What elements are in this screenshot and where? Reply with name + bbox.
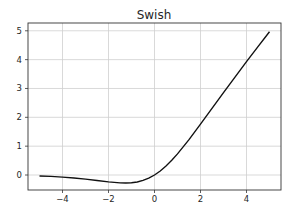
y-tick-label: 2 bbox=[17, 112, 22, 122]
swish-chart: Swish −4−2024 012345 bbox=[0, 0, 294, 211]
y-tick-label: 1 bbox=[17, 141, 22, 151]
y-tick-label: 5 bbox=[17, 26, 22, 36]
grid-lines bbox=[28, 23, 281, 190]
x-tick-label: −4 bbox=[56, 194, 69, 204]
x-axis-ticks: −4−2024 bbox=[56, 190, 249, 204]
y-tick-label: 3 bbox=[17, 83, 22, 93]
x-tick-label: 0 bbox=[152, 194, 157, 204]
x-tick-label: 2 bbox=[198, 194, 203, 204]
y-axis-ticks: 012345 bbox=[17, 26, 28, 180]
y-tick-label: 0 bbox=[17, 170, 22, 180]
x-tick-label: −2 bbox=[102, 194, 115, 204]
y-tick-label: 4 bbox=[17, 55, 22, 65]
x-tick-label: 4 bbox=[244, 194, 249, 204]
chart-title: Swish bbox=[137, 8, 172, 22]
